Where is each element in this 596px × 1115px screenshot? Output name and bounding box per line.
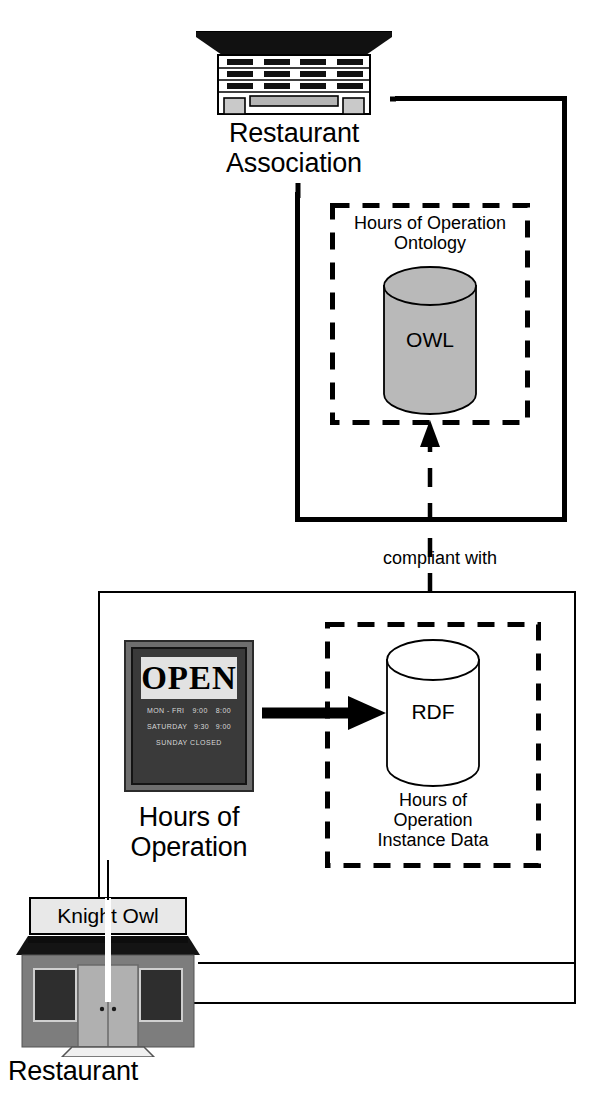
association-label: Restaurant Association [176,118,412,178]
association-label-line2: Association [176,148,412,178]
restaurant-label-text: Restaurant [8,1056,138,1086]
hours-of-operation-line1: Hours of [93,802,285,832]
open-sign-hours-row: SATURDAY 9:30 9:00 [141,723,237,730]
association-label-line1: Restaurant [176,118,412,148]
ontology-title: Hours of Operation Ontology [332,213,528,253]
owl-cylinder: OWL [382,266,478,414]
rdf-cylinder-label: RDF [385,700,481,724]
storefront-icon: Knight Owl [16,897,200,1057]
open-sign-icon: OPEN MON - FRI 9:00 8:00 SATURDAY 9:30 9… [124,640,254,792]
restaurant-label: Restaurant [8,1056,208,1086]
storefront-sign-name: Knight Owl [16,904,200,928]
rdf-cylinder: RDF [385,638,481,788]
instance-data-line2: Operation [327,810,539,830]
compliant-with-text: compliant with [383,548,497,568]
open-sign-headline: OPEN [141,662,237,695]
open-sign-hours-list: MON - FRI 9:00 8:00 SATURDAY 9:30 9:00 S… [141,707,237,746]
open-sign-hours-open: 9:00 [192,707,207,714]
open-sign-closed-note: SUNDAY CLOSED [141,739,237,746]
instance-data-line1: Hours of [327,790,539,810]
instance-data-title: Hours of Operation Instance Data [327,790,539,850]
open-sign-hours-close: 9:00 [216,723,231,730]
compliant-with-label: compliant with [360,548,520,568]
open-sign-hours-days: MON - FRI [147,707,184,714]
open-sign-hours-open: 9:30 [194,723,209,730]
owl-cylinder-label: OWL [382,328,478,352]
ontology-title-line2: Ontology [332,233,528,253]
diagram-canvas: Restaurant Association Hours of Operatio… [0,0,596,1115]
open-sign-headline-panel: OPEN [141,657,237,699]
instance-data-line3: Instance Data [327,830,539,850]
open-sign-hours-days: SATURDAY [147,723,187,730]
hours-of-operation-label: Hours of Operation [93,802,285,862]
open-sign-hours-close: 8:00 [216,707,231,714]
office-building-icon [196,30,392,116]
hours-of-operation-line2: Operation [93,832,285,862]
open-sign-face: OPEN MON - FRI 9:00 8:00 SATURDAY 9:30 9… [131,647,247,785]
ontology-title-line1: Hours of Operation [332,213,528,233]
open-sign-hours-row: MON - FRI 9:00 8:00 [141,707,237,714]
